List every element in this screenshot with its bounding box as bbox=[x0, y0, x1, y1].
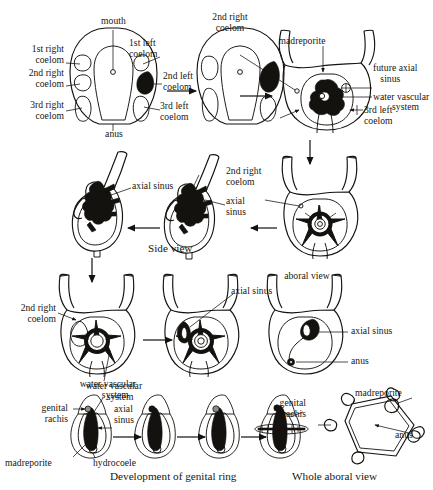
label-genital-rachis-row4: genital rachis bbox=[12, 403, 68, 424]
label-3rd-left-coelom: 3rd left coelom bbox=[160, 101, 222, 122]
label-aboral-view: aboral view bbox=[272, 271, 342, 282]
label-1st-left-coelom: 1st left coelom bbox=[129, 38, 193, 59]
label-2nd-right-coelom-row3: 2nd right coelom bbox=[0, 303, 56, 324]
label-madreporite-row4: madreporite bbox=[5, 458, 73, 469]
label-hydrocoele: hydrocoele bbox=[93, 458, 155, 469]
row4-stage3 bbox=[199, 395, 239, 458]
label-2nd-right-coelom: 2nd right coelom bbox=[2, 68, 64, 89]
label-axial-sinus-row2-left: axial sinus bbox=[132, 181, 196, 192]
row3-stage-left bbox=[58, 274, 135, 381]
label-genital-rachis-stage4: genital rachis bbox=[250, 398, 306, 419]
label-future-axial-sinus: future axial sinus bbox=[373, 63, 431, 84]
row4-stage1 bbox=[71, 395, 112, 458]
row4-whole-aboral-view bbox=[318, 388, 424, 464]
label-anus-row3: anus bbox=[351, 356, 391, 367]
label-3rd-left-coelom-stage3: 3rd left coelom bbox=[364, 105, 416, 126]
caption-whole-aboral-view: Whole aboral view bbox=[292, 470, 377, 482]
label-axial-sinus-row3-right: axial sinus bbox=[351, 326, 415, 337]
label-axial-sinus-row2-middle: axial sinus bbox=[226, 196, 270, 217]
row2-stage-left bbox=[72, 152, 131, 257]
label-axial-sinus-row3-middle: axial sinus bbox=[231, 286, 295, 297]
label-axial-sinus-row4: axial sinus bbox=[114, 404, 158, 425]
label-2nd-right-coelom-stage2: 2nd right coelom bbox=[196, 12, 264, 33]
label-mouth: mouth bbox=[86, 16, 141, 27]
caption-side-view: Side view bbox=[148, 242, 192, 254]
label-wvs-row4-visible: water vascular system bbox=[66, 381, 162, 402]
label-3rd-right-coelom: 3rd right coelom bbox=[2, 100, 64, 121]
label-2nd-left-coelom: 2nd left coelom bbox=[163, 71, 227, 92]
label-anus-aboral: anus bbox=[395, 430, 429, 441]
label-anus-stage1: anus bbox=[90, 129, 138, 140]
row3-stage-middle bbox=[163, 274, 238, 377]
caption-development-of-genital-ring: Development of genital ring bbox=[110, 470, 236, 482]
label-madreporite-aboral: madreporite bbox=[355, 388, 427, 399]
label-2nd-right-coelom-row2: 2nd right coelom bbox=[226, 166, 288, 187]
label-1st-right-coelom: 1st right coelom bbox=[2, 44, 64, 65]
label-madreporite-stage3: madreporite bbox=[269, 36, 335, 47]
